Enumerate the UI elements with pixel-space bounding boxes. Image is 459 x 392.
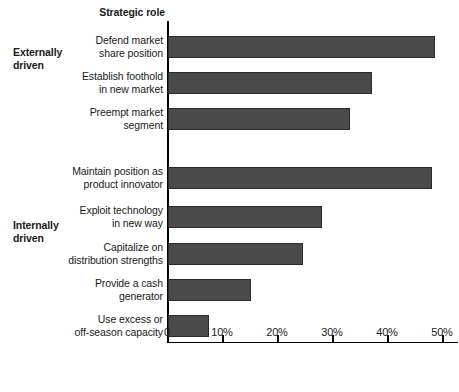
category-label: Defend market share position <box>13 34 163 59</box>
category-label: Capitalize on distribution strengths <box>13 241 163 266</box>
x-axis-line <box>167 342 458 344</box>
category-label: Provide a cash generator <box>13 277 163 302</box>
bar <box>168 72 372 94</box>
category-label: Establish foothold in new market <box>13 70 163 95</box>
bar <box>168 243 303 265</box>
bar <box>168 108 350 130</box>
tick-label: 50% <box>422 326 459 338</box>
tick-label: 40% <box>367 326 407 338</box>
category-label: Exploit technology in new way <box>13 204 163 229</box>
category-label: Use excess or off-season capacity <box>13 313 163 338</box>
category-label: Maintain position as product innovator <box>13 165 163 190</box>
category-label: Preempt market segment <box>13 106 163 131</box>
bar <box>168 36 435 58</box>
chart-axis-title: Strategic role <box>99 6 165 18</box>
plot-area <box>167 21 458 343</box>
tick-label: 0 <box>147 326 187 338</box>
horizontal-bar-chart: Strategic role Externally driven Interna… <box>0 0 459 392</box>
tick-label: 20% <box>257 326 297 338</box>
tick-label: 10% <box>202 326 242 338</box>
bar <box>168 279 251 301</box>
bar <box>168 167 432 189</box>
bar <box>168 206 322 228</box>
tick-label: 30% <box>312 326 352 338</box>
